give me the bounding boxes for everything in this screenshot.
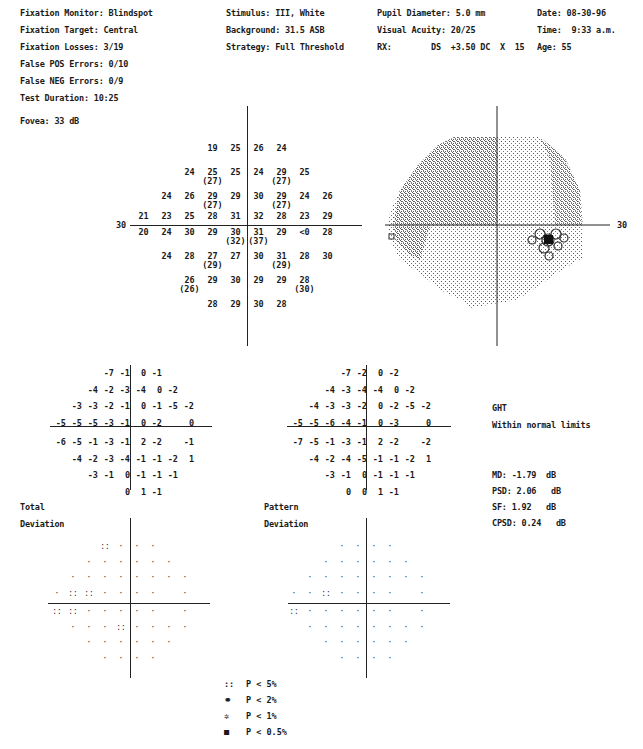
pattern-deviation-prob-symbol: · (413, 574, 431, 582)
pattern-deviation-value: -2 (413, 438, 431, 447)
total-deviation-prob-symbol: · (144, 655, 162, 663)
psd-index: PSD: 2.06 dB (492, 486, 561, 496)
legend-item: ::P < 5% (224, 679, 277, 689)
total-deviation-value: -2 (144, 438, 162, 447)
pattern-deviation-prob-symbol: · (381, 543, 399, 551)
pattern-deviation-prob-symbol: · (381, 590, 399, 598)
pattern-deviation-prob-symbol: · (381, 655, 399, 663)
pattern-deviation-value: -3 (381, 419, 399, 428)
p2-symbol-icon: ⚭ (224, 695, 246, 705)
pattern-deviation-label-1: Pattern (264, 502, 298, 512)
pattern-deviation-value: -2 (413, 402, 431, 411)
sf-index: SF: 1.92 dB (492, 502, 556, 512)
total-deviation-prob-symbol: · (176, 590, 194, 598)
p5-symbol-icon: :: (224, 679, 246, 689)
total-deviation-prob-symbol: · (160, 559, 178, 567)
legend-item: ■P < 0.5% (224, 727, 287, 737)
pattern-deviation-value: 1 (413, 455, 431, 464)
pattern-deviation-prob-symbol: · (397, 559, 415, 567)
pattern-deviation-value: -2 (381, 369, 399, 378)
p1-symbol-icon: ✲ (224, 711, 246, 721)
pattern-deviation-value: 0 (413, 419, 431, 428)
total-deviation-value: -1 (160, 471, 178, 480)
total-deviation-prob-symbol: · (144, 543, 162, 551)
pattern-deviation-prob-symbol: · (413, 608, 431, 616)
ght-label: GHT (492, 403, 507, 413)
total-deviation-label-1: Total (20, 502, 45, 512)
total-deviation-label-2: Deviation (20, 519, 64, 529)
total-deviation-value: -2 (160, 386, 178, 395)
greyscale-axis-label: 30 (617, 220, 627, 230)
pattern-deviation-prob-symbol: · (413, 624, 431, 632)
total-deviation-prob-symbol: · (144, 608, 162, 616)
pattern-deviation-value: -2 (397, 386, 415, 395)
pattern-deviation-prob-symbol: · (381, 608, 399, 616)
pattern-deviation-value: -1 (381, 488, 399, 497)
total-deviation-prob-symbol: · (176, 574, 194, 582)
total-deviation-value: 1 (176, 455, 194, 464)
pattern-dev-prob-h-axis (288, 603, 450, 604)
p05-symbol-icon: ■ (224, 727, 246, 737)
cpsd-index: CPSD: 0.24 dB (492, 518, 566, 528)
total-deviation-value: -1 (176, 438, 194, 447)
total-deviation-value: -1 (144, 369, 162, 378)
total-deviation-value: -2 (144, 419, 162, 428)
total-deviation-prob-symbol: · (160, 639, 178, 647)
total-deviation-prob-symbol: · (176, 624, 194, 632)
total-dev-prob-h-axis (48, 603, 210, 604)
pattern-deviation-value: -1 (397, 471, 415, 480)
pattern-deviation-prob-symbol: · (413, 590, 431, 598)
pattern-deviation-label-2: Deviation (264, 519, 308, 529)
pattern-deviation-value: -2 (381, 438, 399, 447)
total-deviation-prob-symbol: · (144, 590, 162, 598)
legend-item: ✲P < 1% (224, 711, 277, 721)
total-deviation-value: 0 (176, 419, 194, 428)
total-deviation-prob-symbol: · (176, 608, 194, 616)
md-index: MD: -1.79 dB (492, 470, 556, 480)
ght-result: Within normal limits (492, 420, 590, 430)
pattern-deviation-prob-symbol: · (397, 639, 415, 647)
total-deviation-value: -2 (176, 402, 194, 411)
total-deviation-value: -1 (144, 488, 162, 497)
legend-item: ⚭P < 2% (224, 695, 277, 705)
